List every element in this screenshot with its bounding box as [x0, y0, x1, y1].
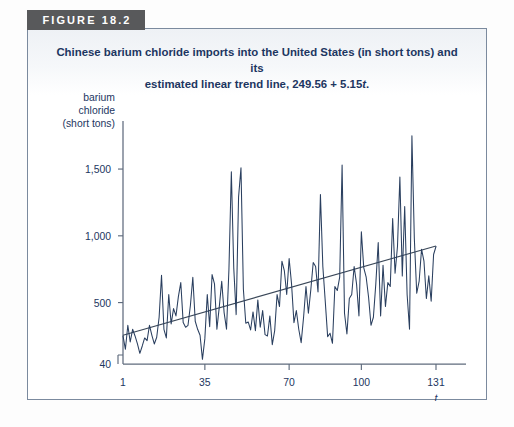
y-axis-title: bariumchloride(short tons)	[62, 92, 115, 129]
plot-area: bariumchloride(short tons) 405001,0001,5…	[28, 29, 488, 401]
figure-root: FIGURE 18.2 Chinese barium chloride impo…	[0, 0, 514, 427]
data-series-line	[123, 136, 436, 360]
svg-text:40: 40	[99, 359, 111, 370]
figure-frame: Chinese barium chloride imports into the…	[27, 28, 487, 400]
svg-text:1: 1	[120, 377, 126, 388]
figure-number-banner: FIGURE 18.2	[27, 10, 145, 30]
chart-svg: bariumchloride(short tons) 405001,0001,5…	[28, 29, 488, 401]
x-axis-title: t	[435, 393, 439, 401]
svg-text:(short tons): (short tons)	[62, 118, 115, 129]
chart-axes	[118, 121, 466, 364]
svg-text:131: 131	[427, 377, 445, 388]
svg-text:t: t	[435, 393, 439, 401]
trend-line	[123, 246, 436, 335]
svg-text:barium: barium	[83, 92, 115, 103]
svg-text:chloride: chloride	[79, 105, 116, 116]
y-axis-ticks: 405001,0001,500	[85, 164, 123, 370]
svg-text:1,000: 1,000	[85, 231, 111, 242]
svg-text:1,500: 1,500	[85, 164, 111, 175]
svg-text:70: 70	[283, 377, 295, 388]
svg-text:500: 500	[94, 298, 112, 309]
svg-text:100: 100	[353, 377, 371, 388]
svg-text:35: 35	[199, 377, 211, 388]
x-axis-ticks: 13570100131	[120, 364, 445, 388]
figure-number-label: FIGURE 18.2	[40, 14, 131, 26]
